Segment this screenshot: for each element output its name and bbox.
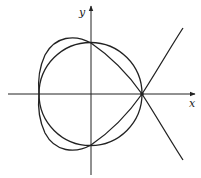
x-axis-label: x xyxy=(189,97,196,110)
diagram-canvas: x y xyxy=(0,0,201,178)
y-axis-label: y xyxy=(78,6,86,19)
node-point xyxy=(140,92,144,96)
